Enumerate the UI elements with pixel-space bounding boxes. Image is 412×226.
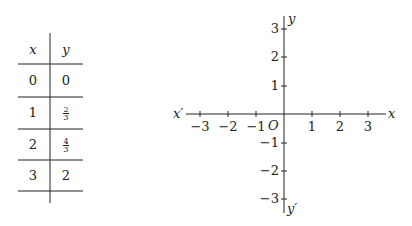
x-tick-label: 1 [308,119,316,134]
y-tick-label: −3 [260,191,279,206]
y-tick-label: 3 [271,21,279,36]
x-tick-label: −3 [190,119,209,134]
y-tick-label: 1 [271,78,279,93]
x-tick-label: 2 [336,119,344,134]
y-tick-label: −2 [260,163,279,178]
x-axis-negative-label: x′ [173,106,183,121]
x-tick-label: 3 [364,119,372,134]
origin-label: O [268,118,279,133]
y-axis-label: y [287,11,296,26]
y-tick-label: 2 [271,49,279,64]
y-axis-negative-label: y′ [286,201,297,216]
x-tick-label: −2 [218,119,237,134]
coordinate-plane: −3 −2 −1 1 2 3 3 2 1 −1 −2 −3 x x′ y y′ … [0,0,412,226]
x-tick-label: −1 [246,119,265,134]
y-tick-label: −1 [260,135,279,150]
x-axis-label: x [388,106,396,121]
